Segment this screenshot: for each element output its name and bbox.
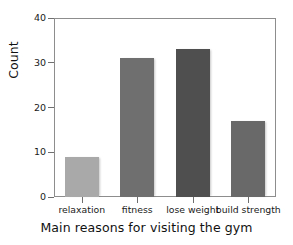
y-tick-label-text: 20	[16, 103, 46, 113]
x-tick-mark	[137, 197, 138, 203]
x-tick-label: build strength	[198, 205, 293, 214]
y-tick-label: 20	[12, 103, 46, 113]
y-tick-label: 40	[12, 13, 46, 23]
bar	[120, 58, 154, 197]
bar-chart: Count 010203040 relaxationfitnesslose we…	[0, 0, 293, 245]
y-tick-label-text: 40	[16, 13, 46, 23]
bar	[176, 49, 210, 197]
x-tick-mark	[82, 197, 83, 203]
x-tick-mark	[193, 197, 194, 203]
bar	[231, 121, 265, 197]
bar	[65, 157, 99, 197]
bars-container	[54, 18, 276, 197]
y-tick-label: 10	[12, 147, 46, 157]
x-axis-title: Main reasons for visiting the gym	[0, 220, 293, 235]
y-tick-label-text: 0	[16, 192, 46, 202]
y-tick-label: 0	[12, 192, 46, 202]
y-tick-label-text: 30	[16, 58, 46, 68]
y-tick-label: 30	[12, 58, 46, 68]
x-tick-mark	[248, 197, 249, 203]
y-tick-label-text: 10	[16, 147, 46, 157]
